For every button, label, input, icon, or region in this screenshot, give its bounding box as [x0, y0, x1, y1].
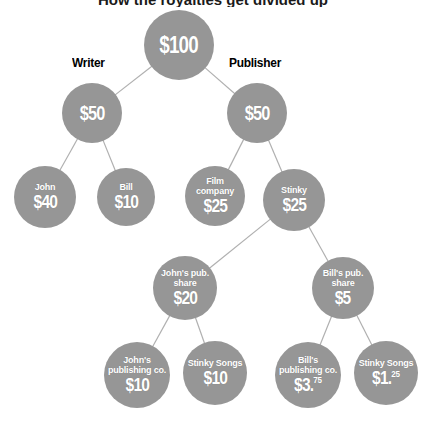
node-total[interactable]: $100	[144, 10, 214, 80]
node-amount-main-publisher-share: $50	[245, 103, 270, 123]
node-writer-share[interactable]: $50	[62, 83, 122, 143]
node-amount-johns-pub-co: $10	[125, 375, 149, 394]
node-amount-main-johns-pub-co: $10	[125, 375, 149, 394]
node-name-bills-pub-co: Bill's publishing co.	[277, 356, 339, 375]
node-amount-writer-share: $50	[80, 103, 105, 123]
node-name-johns-pub-co: John's publishing co.	[106, 356, 168, 375]
node-amount-main-stinky: $25	[282, 195, 306, 214]
royalty-split-diagram: How the royalties get divided up $100$50…	[0, 0, 426, 430]
node-stinky-songs-125[interactable]: Stinky Songs$1.25	[354, 341, 418, 405]
node-amount-john: $40	[33, 192, 57, 211]
node-amount-main-john: $40	[33, 192, 57, 211]
node-name-film-company: Film company	[187, 177, 243, 196]
node-bills-pub-share[interactable]: Bill's pub. share$5	[312, 257, 374, 319]
node-amount-main-film-company: $25	[203, 196, 227, 215]
node-amount-stinky-songs-10: $10	[203, 368, 227, 387]
node-bills-pub-co[interactable]: Bill's publishing co.$3.75	[275, 342, 341, 408]
node-film-company[interactable]: Film company$25	[185, 166, 245, 226]
node-layer: $100$50$50John$40Bill$10Film company$25S…	[0, 0, 426, 430]
node-name-johns-pub-share: John's pub. share	[155, 269, 215, 288]
node-amount-publisher-share: $50	[245, 103, 270, 123]
node-publisher-share[interactable]: $50	[227, 83, 287, 143]
node-amount-cents-bills-pub-co: 75	[313, 375, 322, 385]
node-amount-main-bills-pub-share: $5	[335, 288, 351, 307]
node-amount-stinky: $25	[282, 195, 306, 214]
side-label-writer: Writer	[72, 55, 105, 70]
node-bill[interactable]: Bill$10	[97, 168, 155, 226]
node-amount-main-bills-pub-co: $3.	[294, 375, 313, 394]
node-amount-main-johns-pub-share: $20	[173, 288, 197, 307]
node-amount-cents-stinky-songs-125: 25	[391, 369, 400, 379]
node-amount-bills-pub-share: $5	[335, 288, 351, 307]
node-amount-film-company: $25	[203, 196, 227, 215]
node-amount-main-bill: $10	[114, 192, 138, 211]
node-amount-bills-pub-co: $3.75	[294, 375, 322, 394]
node-amount-johns-pub-share: $20	[173, 288, 197, 307]
node-amount-main-stinky-songs-125: $1.	[372, 368, 391, 387]
node-amount-total: $100	[160, 34, 199, 57]
node-johns-pub-co[interactable]: John's publishing co.$10	[104, 342, 170, 408]
node-stinky-songs-10[interactable]: Stinky Songs$10	[183, 341, 247, 405]
node-amount-main-writer-share: $50	[80, 103, 105, 123]
node-stinky[interactable]: Stinky$25	[263, 169, 325, 231]
node-amount-stinky-songs-125: $1.25	[372, 368, 400, 387]
side-label-publisher: Publisher	[229, 55, 281, 70]
node-johns-pub-share[interactable]: John's pub. share$20	[153, 256, 217, 320]
node-john[interactable]: John$40	[14, 166, 76, 228]
node-amount-bill: $10	[114, 192, 138, 211]
node-amount-main-total: $100	[160, 34, 199, 57]
node-name-bills-pub-share: Bill's pub. share	[314, 269, 372, 288]
node-amount-main-stinky-songs-10: $10	[203, 368, 227, 387]
